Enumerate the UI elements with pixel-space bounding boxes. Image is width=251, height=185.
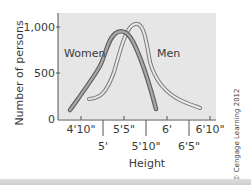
y-tick-label-0: 0: [48, 113, 55, 126]
x-tick-label-6-5: 6'5": [178, 140, 200, 153]
y-tick-label-500: 500: [34, 67, 55, 80]
copyright-notice: © Cengage Learning 2012: [233, 89, 241, 182]
bottom-divider-bar: [0, 179, 251, 185]
height-distribution-chart: 1,000 500 0 Number of persons 4'10" 5'5"…: [0, 0, 251, 185]
men-series-label: Men: [157, 47, 180, 60]
x-tick-label-5-10: 5'10": [131, 140, 160, 153]
women-series-label: Women: [64, 47, 105, 60]
x-axis-label: Height: [129, 157, 166, 170]
x-tick-label-6: 6': [162, 123, 172, 136]
x-tick-label-5-5: 5'5": [113, 123, 135, 136]
x-tick-label-6-10: 6'10": [195, 123, 224, 136]
x-tick-label-4-10: 4'10": [66, 123, 95, 136]
x-tick-label-5: 5': [98, 140, 108, 153]
y-axis-label: Number of persons: [13, 20, 26, 125]
y-tick-label-1000: 1,000: [24, 21, 56, 34]
